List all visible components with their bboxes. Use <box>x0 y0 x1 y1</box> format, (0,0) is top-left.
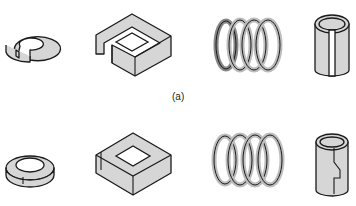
figure-label-a: (a) <box>172 91 184 102</box>
square-band-closed <box>96 133 171 195</box>
split-sleeve-open <box>315 15 349 76</box>
coil-spring-closed <box>214 135 282 185</box>
split-sleeve-closed <box>316 134 348 196</box>
split-ring-open <box>6 37 61 62</box>
figure-canvas: .p{fill:#d6d6d6;stroke:#1a1a1a;stroke-wi… <box>0 0 356 206</box>
coil-spring-open <box>216 20 280 70</box>
split-ring-closed <box>6 156 54 187</box>
square-band-open <box>96 14 171 76</box>
